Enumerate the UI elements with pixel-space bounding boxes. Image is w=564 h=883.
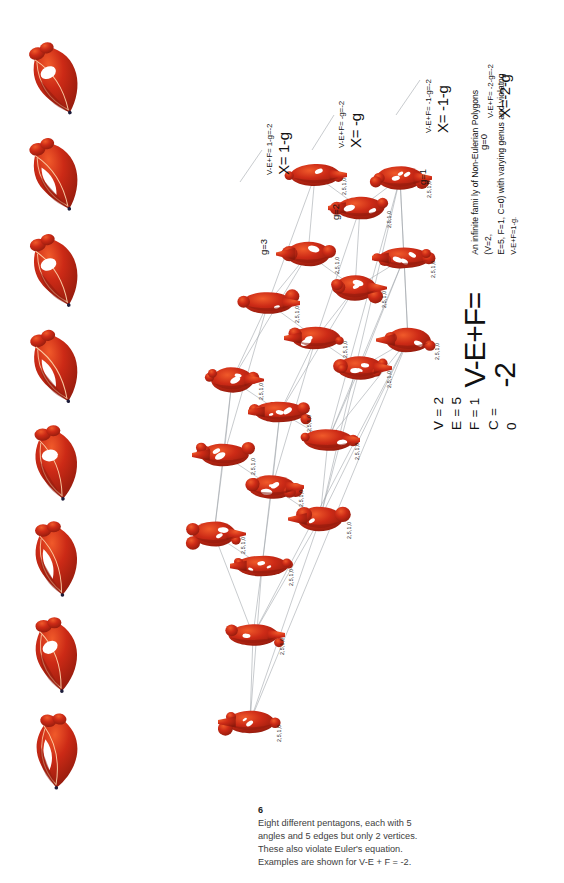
specimen-column	[0, 0, 110, 883]
specimen-shape	[10, 318, 100, 414]
description-line-3: V-E+F=1-g.	[508, 70, 519, 255]
lattice-node	[218, 698, 282, 746]
specimen-shape	[10, 30, 100, 126]
specimen-shape	[10, 702, 100, 798]
specimen-shape	[10, 414, 100, 510]
lattice-node-label: 2,5,1,0	[288, 569, 294, 586]
genus-equation-small: V-E+F= -g=-2	[337, 101, 346, 148]
lattice-node	[221, 611, 285, 659]
lattice-node-label: 2,5,1,0	[346, 522, 352, 539]
figure-description: An infinite fami ly of Non-Eulerian Poly…	[469, 70, 521, 255]
genus-tag-g3: g=3	[258, 239, 269, 255]
figure-page: 2,5,1,0 2,5,1,0 2,5,1,0 2,	[0, 0, 564, 883]
genus-tag-g1: g=1	[417, 169, 428, 185]
callout-leader-line	[396, 80, 420, 115]
figure-caption: 6 Eight different pentagons, each with 5…	[258, 805, 508, 869]
caption-line: These also violate Euler's equation.	[258, 843, 508, 856]
lattice-node	[372, 234, 436, 282]
variable-c: C = 0	[485, 396, 521, 430]
title-block: V = 2 E = 5 F = 1 C = 0 V-E+F= -2 An inf…	[430, 70, 521, 430]
variable-list: V = 2 E = 5 F = 1 C = 0	[430, 396, 521, 430]
specimen-shape	[10, 510, 100, 606]
specimen-shape	[10, 222, 100, 318]
genus-equation-small: V-E+F= 1-g=-2	[265, 124, 274, 175]
caption-body: Eight different pentagons, each with 5 a…	[258, 817, 508, 869]
description-line-2: E=5, F=1, C=0) with varying genus and vi…	[495, 70, 508, 255]
variable-f: F = 1	[466, 396, 484, 430]
lattice-node	[288, 495, 352, 543]
genus-equation-g3: V-E+F= 1-g=-2 X= 1-g	[265, 124, 292, 175]
lattice-node-label: 2,5,1,0	[354, 443, 360, 460]
caption-line: Examples are shown for V-E + F = -2.	[258, 856, 508, 869]
variable-e: E = 5	[448, 396, 466, 430]
lattice-node	[230, 542, 294, 590]
description-line-1: An infinite fami ly of Non-Eulerian Poly…	[469, 70, 495, 255]
specimen-shape	[10, 126, 100, 222]
callout-leader-line	[240, 150, 262, 182]
lattice-node-label: 2,5,1,0	[386, 211, 392, 228]
genus-equation-g2: V-E+F= -g=-2 X= -g	[337, 101, 364, 148]
title-equation: V-E+F= -2	[460, 264, 521, 388]
genus-equation-big: X= 1-g	[275, 124, 292, 175]
lattice-node	[296, 416, 360, 464]
caption-line: angles and 5 edges but only 2 vertices.	[258, 830, 508, 843]
lattice-node-label: 2,5,1,0	[386, 371, 392, 388]
callout-leader-line	[312, 115, 334, 150]
genus-tag-g2: g=2	[330, 204, 341, 220]
lattice-node-label: 2,5,1,0	[276, 725, 282, 742]
caption-line: Eight different pentagons, each with 5	[258, 817, 508, 830]
lattice-diagram: 2,5,1,0 2,5,1,0 2,5,1,0 2,	[120, 0, 440, 800]
genus-equation-big: X= -g	[347, 101, 364, 148]
variable-v: V = 2	[430, 396, 448, 430]
caption-number: 6	[258, 805, 508, 815]
lattice-node-label: 2,5,1,0	[279, 638, 285, 655]
specimen-shape	[10, 606, 100, 702]
lattice-node-label: 2,5,1,0	[381, 291, 387, 308]
